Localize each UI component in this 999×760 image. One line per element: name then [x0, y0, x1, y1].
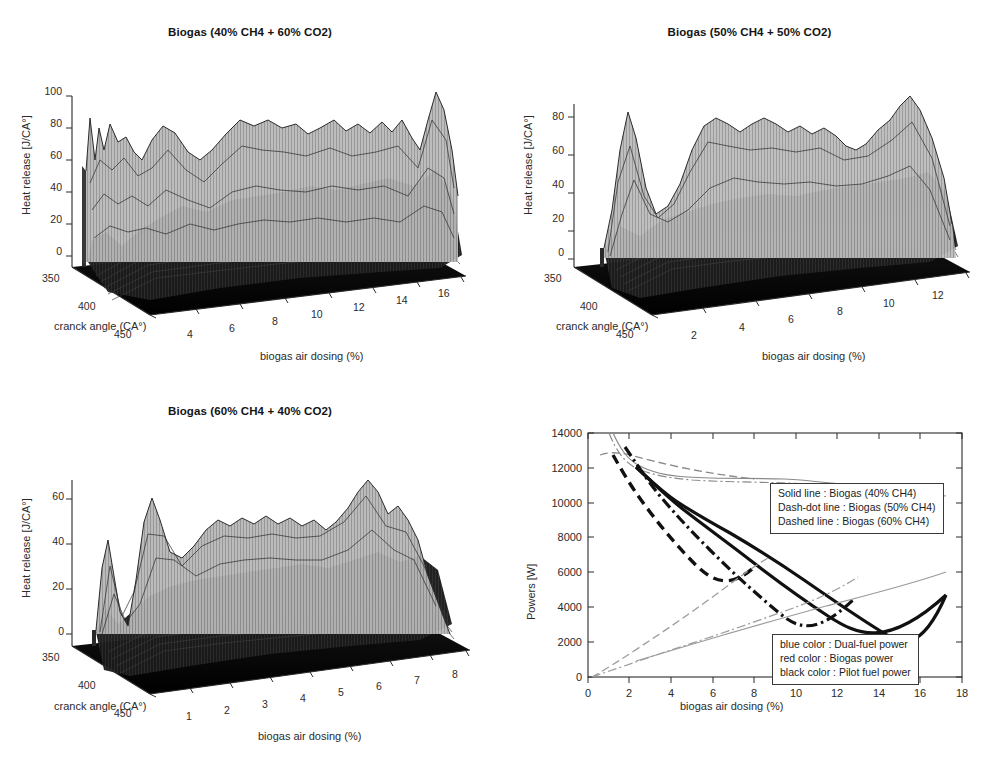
svg-text:2: 2 — [626, 687, 632, 699]
svg-text:12: 12 — [831, 687, 843, 699]
surface-plot-biogas-50 — [500, 0, 999, 380]
figure-root: Biogas (40% CH4 + 60% CO2) Heat release … — [0, 0, 999, 760]
legend-line-item-0: Solid line : Biogas (40% CH4) — [778, 487, 936, 501]
svg-text:2000: 2000 — [558, 636, 582, 648]
svg-text:18: 18 — [956, 687, 968, 699]
legend-color-item-1: red color : Biogas power — [780, 652, 911, 666]
legend-colors: blue color : Dual-fuel power red color :… — [772, 634, 919, 685]
panel-biogas-40: Biogas (40% CH4 + 60% CO2) Heat release … — [0, 0, 500, 380]
svg-text:12000: 12000 — [551, 462, 582, 474]
panel-biogas-60: Biogas (60% CH4 + 40% CO2) Heat release … — [0, 380, 500, 760]
svg-text:10000: 10000 — [551, 497, 582, 509]
legend-line-item-2: Dashed line : Biogas (60% CH4) — [778, 515, 936, 529]
legend-line-item-1: Dash-dot line : Biogas (50% CH4) — [778, 501, 936, 515]
legend-color-item-2: black color : Pilot fuel power — [780, 666, 911, 680]
svg-text:8000: 8000 — [558, 531, 582, 543]
series-biogas-60 — [592, 558, 768, 677]
powers-line-chart-svg: 0 2000 4000 6000 8000 10000 12000 14000 … — [500, 380, 999, 760]
y-tick-labels: 0 2000 4000 6000 8000 10000 12000 14000 — [551, 427, 582, 683]
legend-line-styles: Solid line : Biogas (40% CH4) Dash-dot l… — [770, 483, 944, 534]
series-pilot-60 — [613, 455, 752, 581]
svg-text:4: 4 — [668, 687, 674, 699]
svg-text:14: 14 — [873, 687, 885, 699]
svg-text:10: 10 — [790, 687, 802, 699]
panel-biogas-50: Biogas (50% CH4 + 50% CO2) Heat release … — [500, 0, 999, 380]
svg-text:6: 6 — [710, 687, 716, 699]
surface-plot-biogas-60 — [0, 380, 500, 760]
x-tick-labels: 0 2 4 6 8 10 12 14 16 18 — [585, 687, 968, 699]
svg-text:14000: 14000 — [551, 427, 582, 439]
svg-text:8: 8 — [751, 687, 757, 699]
svg-text:0: 0 — [576, 671, 582, 683]
series-pilot-50 — [625, 447, 854, 626]
svg-text:6000: 6000 — [558, 566, 582, 578]
surface-plot-biogas-40 — [0, 0, 500, 380]
legend-color-item-0: blue color : Dual-fuel power — [780, 638, 911, 652]
svg-text:16: 16 — [914, 687, 926, 699]
svg-text:4000: 4000 — [558, 601, 582, 613]
panel-powers-chart: Powers [W] biogas air dosing (%) — [500, 380, 999, 760]
svg-text:0: 0 — [585, 687, 591, 699]
